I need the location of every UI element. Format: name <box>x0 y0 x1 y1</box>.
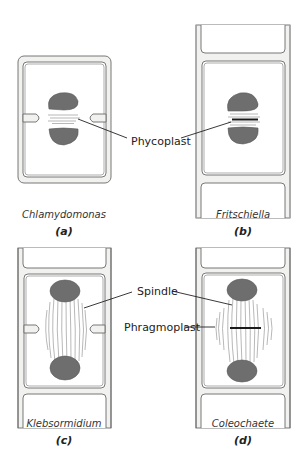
panel-a-chlamydomonas <box>18 56 111 183</box>
cell-division-diagram: Phycoplast Chlamydomonas (a) Fritschiell… <box>0 0 307 463</box>
nucleus-top <box>227 279 257 301</box>
panel-c-klebsormidium <box>18 248 111 428</box>
nucleus-bottom <box>227 360 257 382</box>
neighbor-cell-top <box>201 25 285 53</box>
species-label-c: Klebsormidium <box>27 418 102 429</box>
nucleus-bottom <box>50 356 80 380</box>
cell-membrane <box>202 61 285 175</box>
furrow-left <box>24 325 39 333</box>
panel-d-coleochaete <box>196 248 290 428</box>
furrow-right <box>90 325 105 333</box>
panel-letter-b: (b) <box>234 225 252 238</box>
species-label-b: Fritschiella <box>216 209 270 220</box>
panel-letter-d: (d) <box>234 434 252 447</box>
nucleus-top <box>50 280 80 302</box>
furrow-left <box>23 114 39 122</box>
panel-b-fritschiella <box>196 25 290 218</box>
phycoplast-label: Phycoplast <box>131 135 191 148</box>
species-label-a: Chlamydomonas <box>22 209 106 220</box>
spindle-label: Spindle <box>137 285 178 298</box>
neighbor-cell-top <box>23 248 106 268</box>
species-label-d: Coleochaete <box>212 418 274 429</box>
panel-letter-c: (c) <box>56 434 73 447</box>
furrow-right <box>90 114 106 122</box>
panel-letter-a: (a) <box>55 225 72 238</box>
phragmoplast-label: Phragmoplast <box>124 321 201 334</box>
neighbor-cell-top <box>201 248 285 268</box>
